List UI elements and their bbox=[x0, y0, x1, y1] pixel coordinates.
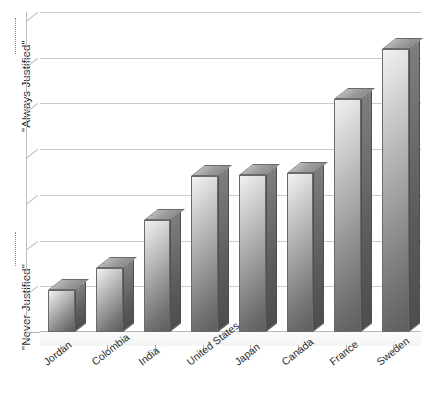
bar-united-states bbox=[191, 176, 218, 332]
bar-side-face bbox=[409, 41, 420, 332]
bar-series bbox=[40, 6, 421, 346]
bar-france bbox=[334, 99, 361, 332]
bar-side-face bbox=[75, 282, 86, 332]
bar-chart: "Always Justified" "Never Justified" Jor… bbox=[0, 0, 426, 405]
bar-side-face bbox=[361, 91, 372, 332]
bar-front-face bbox=[287, 173, 314, 332]
bar-canada bbox=[287, 173, 314, 332]
bar-front-face bbox=[48, 290, 75, 332]
bar-sweden bbox=[382, 49, 409, 332]
bar-india bbox=[144, 220, 171, 332]
y-axis-line bbox=[26, 12, 27, 344]
gridline-depth-edge bbox=[26, 240, 38, 250]
bar-front-face bbox=[191, 176, 218, 332]
gridline-depth-edge bbox=[26, 149, 38, 159]
gridline-depth-edge bbox=[26, 195, 38, 205]
bar-front-face bbox=[96, 268, 123, 332]
bar-japan bbox=[239, 175, 266, 332]
bar-side-face bbox=[170, 211, 181, 332]
bar-front-face bbox=[382, 49, 409, 332]
bar-front-face bbox=[334, 99, 361, 332]
bar-side-face bbox=[266, 166, 277, 332]
bar-side-face bbox=[218, 168, 229, 332]
x-axis-label-india: India bbox=[136, 344, 161, 367]
bar-colombia bbox=[96, 268, 123, 332]
bar-side-face bbox=[123, 259, 134, 332]
bar-front-face bbox=[239, 175, 266, 332]
x-axis-labels: JordanColombiaIndiaUnited StatesJapanCan… bbox=[40, 352, 421, 405]
bar-side-face bbox=[313, 164, 324, 332]
y-axis-bottom-leader-line bbox=[15, 232, 16, 266]
bar-jordan bbox=[48, 290, 75, 332]
gridline-depth-edge bbox=[26, 12, 38, 22]
bar-front-face bbox=[144, 220, 171, 332]
y-axis-top-leader-line bbox=[15, 18, 16, 54]
